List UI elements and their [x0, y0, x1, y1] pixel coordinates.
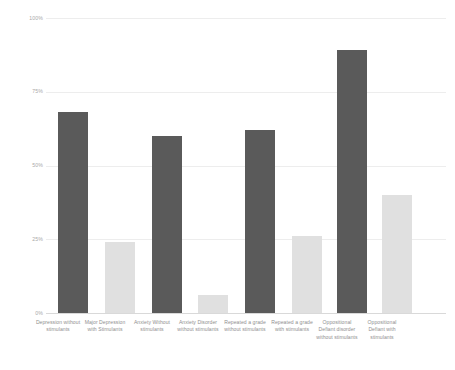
- category-label-6: Oppositional Defiant disorder without st…: [314, 319, 360, 341]
- bar-chart: 100% 75% 50% 25% 0% Depression without s…: [0, 0, 455, 370]
- category-label-0: Depression without stimulants: [35, 319, 81, 334]
- category-label-2: Anxiety Without stimulants: [129, 319, 175, 334]
- category-label-4: Repeated a grade without stimulants: [222, 319, 268, 334]
- x-axis-line: [46, 313, 446, 314]
- y-axis-tick-label-0: 0%: [35, 310, 43, 316]
- bar-3[interactable]: [198, 295, 228, 313]
- y-axis-tick-label-75: 75%: [32, 88, 43, 94]
- category-label-1: Major Depression with Stimulants: [82, 319, 128, 334]
- bar-6[interactable]: [337, 50, 367, 313]
- y-axis-tick-label-25: 25%: [32, 236, 43, 242]
- category-label-7: Oppositional Defiant with stimulants: [359, 319, 405, 341]
- bar-7[interactable]: [382, 195, 412, 313]
- bar-0[interactable]: [58, 112, 88, 313]
- y-axis-tick-label-100: 100%: [29, 15, 43, 21]
- bar-5[interactable]: [292, 236, 322, 313]
- gridline-75: [46, 92, 446, 93]
- bar-1[interactable]: [105, 242, 135, 313]
- bar-2[interactable]: [152, 136, 182, 313]
- category-label-5: Repeated a grade with stimulants: [269, 319, 315, 334]
- gridline-100: [46, 18, 446, 19]
- y-axis-tick-label-50: 50%: [32, 162, 43, 168]
- plot-area: [46, 18, 446, 313]
- category-label-3: Anxiety Disorder without stimulants: [175, 319, 221, 334]
- bar-4[interactable]: [245, 130, 275, 313]
